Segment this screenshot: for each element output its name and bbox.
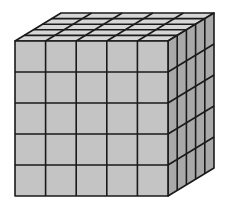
cube-right-face: [168, 13, 214, 196]
cube-front-face: [15, 41, 168, 196]
right-face-shape: [168, 13, 214, 196]
front-face-shape: [15, 41, 168, 196]
cube-svg: [0, 0, 229, 213]
cube-diagram: [0, 0, 229, 213]
